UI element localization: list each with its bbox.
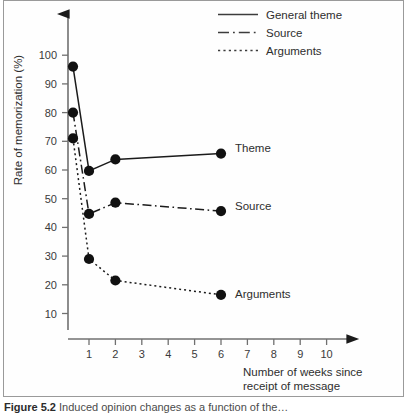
legend-item-arguments: Arguments	[218, 45, 322, 57]
data-point-theme-1	[84, 166, 94, 176]
legend-label-arguments: Arguments	[266, 45, 322, 57]
figure-container: 10 20 30 40 50 60 70 80 90 100 1 2 3	[0, 0, 407, 415]
x-tick-label-4: 4	[165, 348, 171, 360]
data-point-source-3	[216, 206, 226, 216]
y-tick-label-50: 50	[45, 193, 57, 205]
y-tick-label-40: 40	[45, 221, 57, 233]
x-tick-label-10: 10	[320, 348, 332, 360]
y-tick-label-80: 80	[45, 107, 57, 119]
data-point-arguments-1	[84, 254, 94, 264]
x-tick-label-5: 5	[192, 348, 198, 360]
series-general-theme: Theme	[68, 62, 271, 176]
x-tick-label-6: 6	[218, 348, 224, 360]
y-tick-label-10: 10	[45, 308, 57, 320]
x-tick-label-2: 2	[112, 348, 118, 360]
data-point-source-0	[68, 108, 78, 118]
y-axis-ticks: 10 20 30 40 50 60 70 80 90 100	[39, 49, 68, 319]
x-axis-ticks: 1 2 3 4 5 6 7 8 9 10	[86, 339, 333, 360]
y-tick-label-20: 20	[45, 279, 57, 291]
data-point-source-2	[110, 198, 120, 208]
chart-plot: 10 20 30 40 50 60 70 80 90 100 1 2 3	[0, 0, 407, 415]
data-point-theme-2	[110, 154, 120, 164]
legend-item-source: Source	[218, 27, 302, 39]
data-point-arguments-0	[68, 133, 78, 143]
series-source: Source	[68, 108, 272, 219]
x-axis-title-line1: Number of weeks since	[243, 366, 363, 378]
series-arguments: Arguments	[68, 133, 291, 300]
x-tick-label-8: 8	[271, 348, 277, 360]
legend-label-source: Source	[266, 27, 302, 39]
x-tick-label-7: 7	[244, 348, 250, 360]
figure-caption: Figure 5.2 Induced opinion changes as a …	[4, 401, 404, 415]
data-point-theme-3	[216, 149, 226, 159]
y-tick-label-30: 30	[45, 250, 57, 262]
data-point-arguments-3	[216, 290, 226, 300]
series-label-arguments: Arguments	[235, 288, 291, 300]
y-tick-label-60: 60	[45, 164, 57, 176]
series-label-theme: Theme	[235, 142, 271, 154]
y-tick-label-70: 70	[45, 135, 57, 147]
data-point-theme-0	[68, 62, 78, 72]
y-tick-label-90: 90	[45, 78, 57, 90]
figure-caption-text: Induced opinion changes as a function of…	[59, 401, 288, 413]
y-axis-title: Rate of memorization (%)	[12, 55, 24, 186]
x-axis-title-line2: receipt of message	[243, 380, 340, 392]
data-point-source-1	[84, 209, 94, 219]
legend: General theme Source Arguments	[218, 9, 342, 57]
x-tick-label-9: 9	[297, 348, 303, 360]
figure-caption-label: Figure 5.2	[4, 401, 56, 413]
x-tick-label-3: 3	[139, 348, 145, 360]
legend-label-general-theme: General theme	[266, 9, 342, 21]
series-label-source: Source	[235, 200, 271, 212]
legend-item-general-theme: General theme	[218, 9, 342, 21]
y-tick-label-100: 100	[39, 49, 57, 61]
data-point-arguments-2	[110, 275, 120, 285]
x-tick-label-1: 1	[86, 348, 92, 360]
